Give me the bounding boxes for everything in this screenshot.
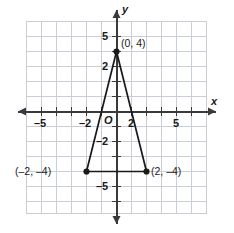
origin-label: O xyxy=(104,115,113,126)
point-label-apex: (0, 4) xyxy=(121,38,146,49)
x-axis-left-arrow xyxy=(18,108,26,116)
point-bottom-right-marker xyxy=(143,168,149,174)
y-axis xyxy=(112,10,121,224)
y-axis-name-label: y xyxy=(122,4,128,15)
x-tick-label-neg2: –2 xyxy=(79,118,91,129)
x-tick-label-pos5: 5 xyxy=(173,118,179,129)
y-tick-label-pos2: 2 xyxy=(102,61,108,72)
x-tick-label-neg5: –5 xyxy=(34,118,46,129)
y-tick-label-neg2: –2 xyxy=(96,136,108,147)
x-axis-right-arrow xyxy=(208,108,216,116)
x-tick-label-pos2: 2 xyxy=(128,118,134,129)
y-axis-top-arrow xyxy=(113,10,121,18)
point-label-bottom-right: (2, –4) xyxy=(151,166,181,177)
y-axis-bottom-arrow xyxy=(113,216,121,224)
x-axis-name-label: x xyxy=(211,96,217,107)
point-label-bottom-left: (–2, –4) xyxy=(15,166,51,177)
point-bottom-left-marker xyxy=(83,168,89,174)
point-apex-marker xyxy=(113,48,119,54)
coordinate-plane-figure: –5 –2 2 5 5 2 –2 –5 O x y (0, 4) (–2, –4… xyxy=(0,0,234,233)
y-tick-label-neg5: –5 xyxy=(96,181,108,192)
y-tick-label-pos5: 5 xyxy=(102,31,108,42)
